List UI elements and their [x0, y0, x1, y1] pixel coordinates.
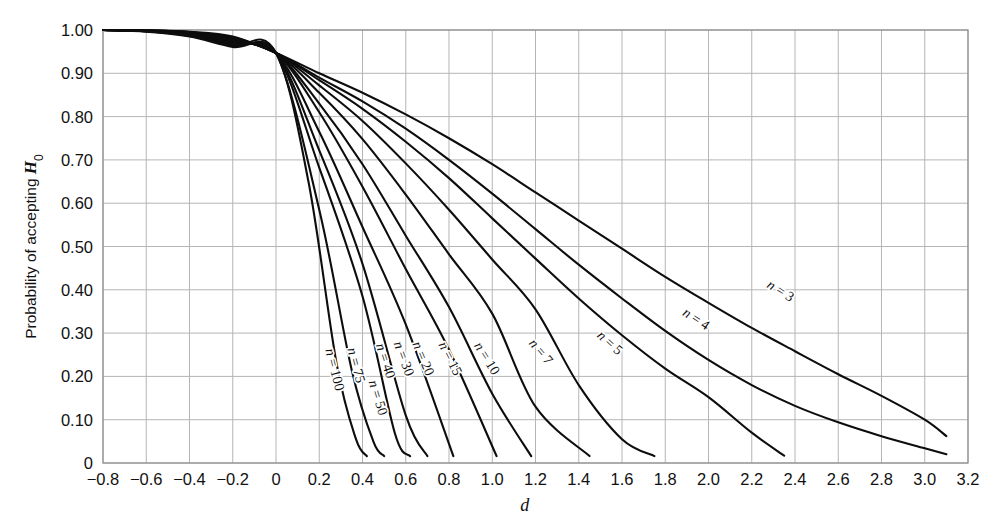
- y-tick-label: 0.50: [61, 238, 93, 256]
- y-tick-label: 0.80: [61, 108, 93, 126]
- x-tick-label: 2.2: [740, 470, 763, 488]
- x-tick-label: 1.8: [654, 470, 677, 488]
- curve-label-n-5: n = 5n = 5: [594, 328, 626, 358]
- y-tick-label: 0.40: [61, 281, 93, 299]
- x-tick-label: 2.8: [870, 470, 893, 488]
- svg-text:n = 75: n = 75: [344, 346, 368, 385]
- curve-n-30: [103, 30, 453, 456]
- y-tick-label: 0.20: [61, 367, 93, 385]
- x-tick-label: −0.6: [130, 470, 163, 488]
- oc-curve-chart: n = 3n = 3n = 4n = 4n = 5n = 5n = 7n = 7…: [0, 0, 1000, 528]
- x-tick-label: −0.4: [173, 470, 206, 488]
- curve-label-n-75: n = 75n = 75: [344, 346, 368, 385]
- curve-group: [103, 30, 946, 456]
- y-tick-label: 0.10: [61, 411, 93, 429]
- x-tick-label: 0.8: [438, 470, 461, 488]
- x-tick-label: 2.4: [784, 470, 807, 488]
- y-tick-label: 0.60: [61, 194, 93, 212]
- curve-label-n-7: n = 7n = 7: [526, 336, 556, 368]
- curve-n-3: [103, 30, 946, 436]
- curve-label-n-4: n = 4n = 4: [680, 305, 712, 333]
- x-tick-label: 1.2: [524, 470, 547, 488]
- svg-text:n = 100: n = 100: [322, 347, 347, 392]
- x-tick-label: 2.6: [827, 470, 850, 488]
- svg-text:n = 7: n = 7: [526, 336, 556, 368]
- x-tick-label: 1.4: [567, 470, 590, 488]
- y-tick-label: 0.70: [61, 151, 93, 169]
- curve-n-4: [103, 30, 946, 454]
- curve-label-group: n = 3n = 3n = 4n = 4n = 5n = 5n = 7n = 7…: [322, 277, 797, 417]
- x-tick-label: 0: [271, 470, 280, 488]
- svg-text:n = 4: n = 4: [680, 305, 712, 333]
- svg-text:Probability of accepting H0: Probability of accepting H0: [21, 154, 46, 339]
- curve-label-n-50: n = 50n = 50: [365, 378, 390, 417]
- x-tick-label: 0.2: [308, 470, 331, 488]
- x-axis-title: d: [520, 495, 530, 515]
- x-tick-label: 2.0: [697, 470, 720, 488]
- svg-text:n = 15: n = 15: [435, 339, 465, 378]
- curve-label-n-3: n = 3n = 3: [764, 277, 796, 305]
- svg-text:n = 5: n = 5: [594, 328, 626, 358]
- y-tick-label: 0.30: [61, 324, 93, 342]
- x-axis-tick-labels: −0.8−0.6−0.4−0.200.20.40.60.81.01.21.41.…: [87, 470, 980, 488]
- curve-n-15: [103, 30, 531, 456]
- curve-label-n-100: n = 100n = 100: [322, 347, 347, 392]
- svg-text:n = 10: n = 10: [471, 339, 503, 377]
- y-axis-tick-labels: 1.000.900.800.700.600.500.400.300.200.10…: [61, 21, 93, 472]
- x-tick-label: 3.0: [913, 470, 936, 488]
- curve-label-n-15: n = 15n = 15: [435, 339, 465, 378]
- curve-n-20: [103, 30, 497, 456]
- y-tick-label: 0: [84, 454, 93, 472]
- x-tick-label: 3.2: [957, 470, 980, 488]
- x-tick-label: 0.6: [394, 470, 417, 488]
- y-tick-label: 0.90: [61, 64, 93, 82]
- x-tick-label: 1.6: [611, 470, 634, 488]
- x-tick-label: 1.0: [481, 470, 504, 488]
- svg-text:n = 50: n = 50: [365, 378, 390, 417]
- curve-label-n-10: n = 10n = 10: [471, 339, 503, 377]
- chart-figure: n = 3n = 3n = 4n = 4n = 5n = 5n = 7n = 7…: [0, 0, 1000, 528]
- y-tick-label: 1.00: [61, 21, 93, 39]
- svg-text:n = 3: n = 3: [764, 277, 796, 305]
- x-tick-label: −0.2: [216, 470, 249, 488]
- grid-lines: [103, 30, 968, 463]
- y-axis-title: Probability of accepting H0: [21, 154, 46, 339]
- x-tick-label: 0.4: [351, 470, 374, 488]
- x-tick-label: −0.8: [87, 470, 120, 488]
- curve-n-5: [103, 30, 784, 456]
